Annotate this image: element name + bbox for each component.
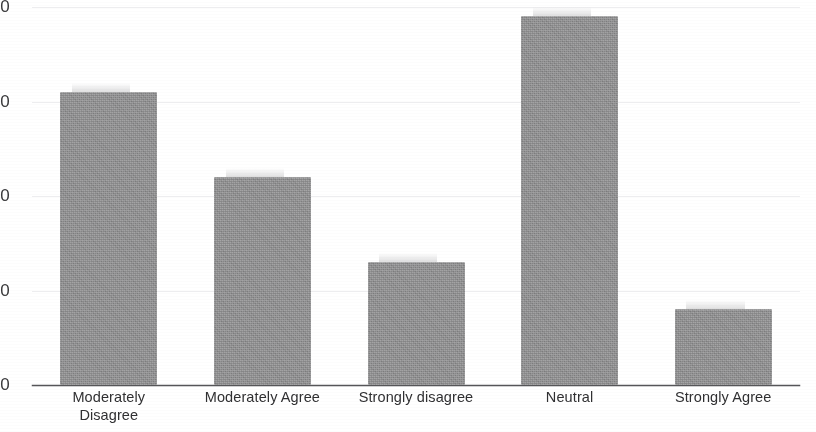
x-axis-category-label-group: Moderately DisagreeModerately AgreeStron… (32, 389, 800, 432)
y-axis-tick-label: 10 (0, 282, 10, 299)
bar-slot (521, 7, 618, 385)
plot-area: 010203040 (32, 7, 800, 385)
bar[interactable] (214, 177, 311, 385)
x-axis-category-label: Moderately Agree (186, 389, 340, 407)
bar[interactable] (368, 262, 465, 385)
x-axis-category-label: Moderately Disagree (32, 389, 186, 424)
bar-chart: 010203040 Moderately DisagreeModerately … (0, 0, 816, 432)
x-axis-category-label: Strongly Agree (646, 389, 800, 407)
bar-slot (60, 7, 157, 385)
bar-slot (675, 7, 772, 385)
x-axis-line (32, 385, 800, 386)
y-axis-tick-label: 30 (0, 93, 10, 110)
x-axis-category-label: Strongly disagree (339, 389, 493, 407)
y-axis-tick-label: 20 (0, 187, 10, 204)
x-axis-category-label: Neutral (493, 389, 647, 407)
y-axis-tick-label: 40 (0, 0, 10, 15)
bar[interactable] (521, 16, 618, 385)
bar[interactable] (675, 309, 772, 385)
bar[interactable] (60, 92, 157, 385)
bar-slot (214, 7, 311, 385)
bar-slot (368, 7, 465, 385)
bar-series (32, 7, 800, 385)
y-axis-tick-label: 0 (0, 376, 10, 393)
